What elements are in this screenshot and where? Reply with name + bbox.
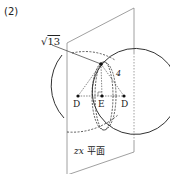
- length-4-label: 4: [116, 70, 121, 78]
- right-circle-inner-arc: [92, 70, 100, 116]
- point-d-left: [76, 94, 79, 97]
- point-d-left-label: D: [73, 100, 80, 109]
- sqrt13-segment: [52, 45, 101, 64]
- zx-plane-label: zx 平面: [74, 147, 105, 156]
- sqrt-radicand: 13: [47, 36, 60, 47]
- top-intersection-point: [99, 62, 103, 66]
- plane-variable: zx: [74, 146, 84, 156]
- point-e-label: E: [98, 100, 105, 109]
- problem-number: (2): [4, 7, 18, 17]
- point-d-right-label: D: [121, 100, 128, 109]
- sqrt13-label: √13: [41, 37, 60, 47]
- plane-text: 平面: [87, 146, 105, 156]
- point-e: [100, 94, 103, 97]
- point-d-right: [122, 94, 125, 97]
